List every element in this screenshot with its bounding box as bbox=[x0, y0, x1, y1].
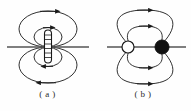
inner-arc-top-path bbox=[127, 26, 162, 43]
panel-b-drawing bbox=[95, 0, 191, 88]
panel-a-caption: ( a ) bbox=[0, 88, 95, 100]
figure-panel-a: ( a ) bbox=[0, 0, 95, 111]
figure-root: ( a ) bbox=[0, 0, 191, 111]
outer-arc-top bbox=[117, 10, 173, 44]
outer-arc-bottom bbox=[117, 50, 173, 84]
open-pole-marker bbox=[122, 41, 134, 53]
panel-a-drawing bbox=[0, 0, 95, 88]
panel-b-caption: ( b ) bbox=[95, 88, 191, 100]
figure-panel-b: ( b ) bbox=[95, 0, 191, 111]
inner-arc-bottom bbox=[127, 51, 162, 68]
outer-arc-top-path bbox=[117, 10, 173, 44]
filled-pole-marker bbox=[155, 40, 169, 54]
inner-arc-bottom-path bbox=[127, 51, 162, 68]
solenoid-rod bbox=[45, 30, 52, 63]
outer-arc-bottom-path bbox=[117, 50, 173, 84]
inner-arc-top bbox=[127, 26, 162, 43]
